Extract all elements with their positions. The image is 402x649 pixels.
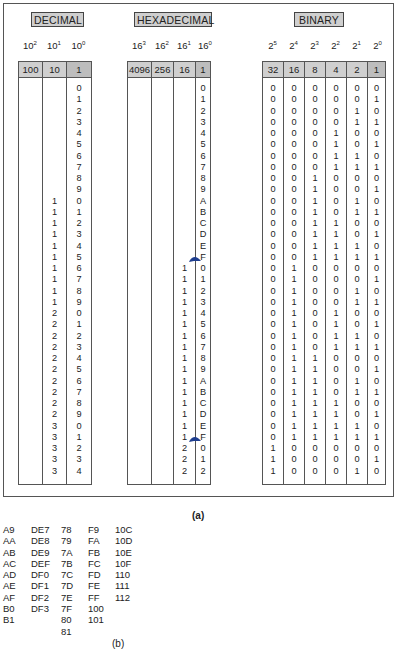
digit-cell: 0 [196,83,210,94]
digit-cell: 0 [263,263,283,274]
digit-cell: 0 [263,229,283,240]
hexadecimal-column: 256 [152,62,174,484]
digit-cell: 4 [67,353,91,364]
digit-cell: 0 [196,443,210,454]
digit-cell: 0 [263,319,283,330]
digit-cell: 1 [43,229,66,240]
digit-cell: 1 [368,297,385,308]
digit-cell: 0 [326,454,346,465]
digit-cell: 0 [284,128,304,139]
binary-column: 3200000000000000000000000000000000111 [263,62,284,484]
digit-cell: 1 [284,263,304,274]
digit-cell: 1 [43,241,66,252]
hexadecimal-column: 10123456789ABCDEF0123456789ABCDEF012 [196,62,210,484]
digit-cell: 8 [67,173,91,184]
caption-b: (b) [112,638,124,649]
digit-cell: 1 [305,353,325,364]
hex-value: DEF [31,558,61,569]
digit-cell: 0 [326,94,346,105]
digit-cell: 1 [305,207,325,218]
digit-cell: 1 [305,364,325,375]
digit-cell: 0 [305,342,325,353]
digit-cell: 6 [196,151,210,162]
hex-list-column: DE7DE8DE9DEFDF0DF1DF2DF3 [31,524,61,637]
power-label: 161 [173,40,195,54]
hex-list-column: A9AAABACADAEAFB0B1 [3,524,31,637]
digit-cell: 0 [326,387,346,398]
digit-cell: 0 [284,252,304,263]
digit-cell: 2 [43,331,66,342]
digit-cell [43,106,66,117]
digit-cell: B [196,207,210,218]
hex-value: 101 [88,614,115,625]
digit-cell: 1 [326,409,346,420]
digit-cell: 0 [326,364,346,375]
digit-cell: 1 [347,376,367,387]
digit-cell: 1 [174,409,195,420]
digit-cell: 9 [67,297,91,308]
digit-cell: 0 [326,106,346,117]
digit-cell: 1 [368,274,385,285]
digit-cell: 1 [326,421,346,432]
digit-cell: 0 [368,128,385,139]
digit-cell: 1 [284,409,304,420]
carry-arrow-icon [188,435,202,443]
digit-cell: 0 [347,173,367,184]
digit-cell: 3 [43,466,66,477]
digit-cell: 0 [305,286,325,297]
digit-cell: 5 [67,139,91,150]
digit-cell: 1 [67,207,91,218]
digit-cell: 7 [67,387,91,398]
digit-cell: 3 [196,297,210,308]
digit-cell: 3 [67,454,91,465]
digit-cell: 1 [174,376,195,387]
digit-cell: 1 [43,207,66,218]
digit-cell: 1 [368,432,385,443]
binary-title: BINARY [294,12,344,27]
digit-cell: 0 [326,207,346,218]
digit-cell [43,162,66,173]
hex-value: FE [88,580,115,591]
digit-cell: 1 [326,162,346,173]
hex-value: DF3 [31,603,61,614]
digit-cell [43,151,66,162]
digit-cell: 2 [67,331,91,342]
digit-cell: 4 [67,128,91,139]
digit-cell: 3 [43,454,66,465]
digit-cell: 4 [196,128,210,139]
digit-cell [43,139,66,150]
binary-column: 400001111000011110000111100001111000 [326,62,347,484]
digit-cell: 3 [67,342,91,353]
digit-cell: 0 [368,263,385,274]
hex-value: AB [3,547,31,558]
digit-cell: 1 [174,286,195,297]
digit-cell: 1 [347,252,367,263]
hexadecimal-column: 4096 [128,62,152,484]
digit-cell: 1 [305,376,325,387]
digit-cell: 0 [284,151,304,162]
weight-header: 1 [368,62,385,78]
digit-cell: 5 [67,252,91,263]
digit-cell: 1 [263,443,283,454]
digit-cell: C [196,398,210,409]
power-label: 20 [367,40,388,54]
digit-cell: 0 [263,173,283,184]
digit-cell: 0 [284,94,304,105]
digit-cell [174,162,195,173]
digit-cell: 1 [174,398,195,409]
digit-cell: 1 [368,342,385,353]
digit-cell [174,229,195,240]
digit-cell: 0 [263,117,283,128]
digit-cell: 1 [347,106,367,117]
digit-cell: 0 [305,308,325,319]
digit-cell: 1 [43,263,66,274]
digit-cell: 0 [263,308,283,319]
hex-value: 10F [115,558,145,569]
digit-cell [174,218,195,229]
digit-cell: E [196,241,210,252]
digit-cell: 0 [347,139,367,150]
digit-cell: 7 [67,274,91,285]
digit-cell: 0 [347,229,367,240]
digit-cell: 0 [305,274,325,285]
decimal-column: 101234567890123456789012345678901234 [67,62,91,484]
